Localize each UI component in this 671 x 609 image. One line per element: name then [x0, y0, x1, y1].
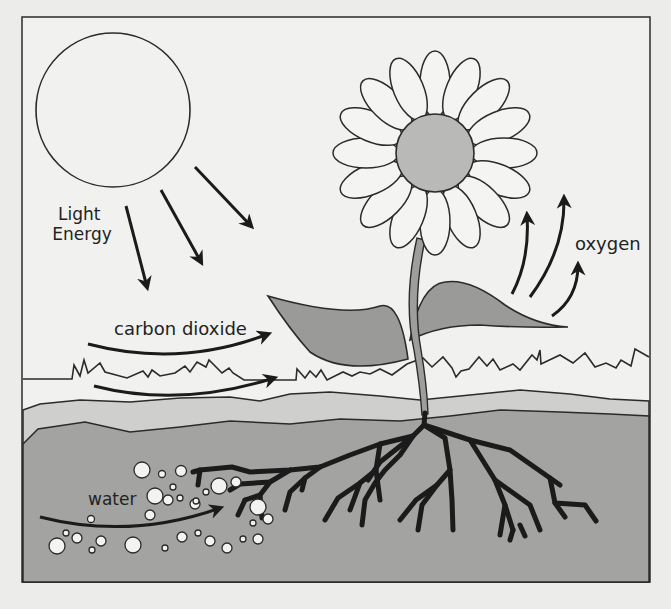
- light-energy-label: Light Energy: [52, 204, 112, 244]
- sun: [36, 33, 190, 187]
- oxygen-label: oxygen: [575, 233, 641, 254]
- flower-center: [396, 114, 474, 192]
- water-label: water: [88, 489, 136, 509]
- photosynthesis-diagram: Light Energy carbon dioxide: [0, 0, 671, 609]
- flower: [333, 51, 537, 255]
- carbon-dioxide-label: carbon dioxide: [114, 318, 247, 339]
